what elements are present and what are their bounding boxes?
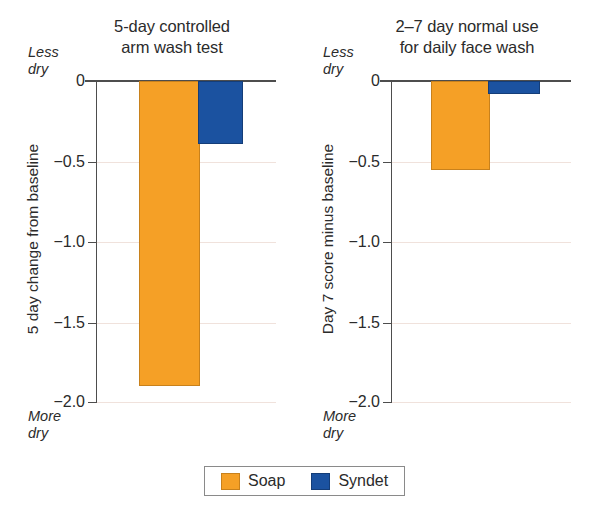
y-tick-label-right-2: −1.0 — [348, 233, 380, 251]
chart-title-left: 5-day controlled arm wash test — [52, 16, 292, 58]
bar-right-syndet — [488, 81, 540, 94]
y-tick-label-right-1: −0.5 — [348, 153, 380, 171]
gridline-right-1.0 — [392, 242, 571, 243]
chart-title-right-line-2: for daily face wash — [347, 37, 587, 58]
annotation-less-dry-left-line-1: Less — [28, 44, 59, 61]
y-tick-right-3 — [383, 323, 392, 324]
y-tick-label-left-3: −1.5 — [53, 314, 85, 332]
legend-item-soap[interactable]: Soap — [221, 472, 285, 490]
chart-title-left-line-1: 5-day controlled — [52, 16, 292, 37]
annotation-less-dry-left-line-2: dry — [28, 61, 59, 78]
chart-panel-arm-wash-test: 5-day controlled arm wash test 5 day cha… — [0, 0, 295, 450]
y-tick-right-1 — [383, 162, 392, 163]
legend-swatch-syndet-icon — [311, 473, 330, 490]
legend-label-syndet: Syndet — [338, 472, 388, 490]
annotation-less-dry-left: Less dry — [28, 44, 59, 77]
chart-legend: Soap Syndet — [204, 466, 405, 496]
chart-panel-daily-face-wash: 2–7 day normal use for daily face wash D… — [295, 0, 590, 450]
plot-area-right: 0 −0.5 −1.0 −1.5 −2.0 — [391, 81, 571, 403]
gridline-left-2.0 — [97, 402, 276, 403]
annotation-more-dry-left: More dry — [28, 408, 61, 441]
annotation-less-dry-right-line-2: dry — [323, 61, 354, 78]
y-tick-left-3 — [88, 323, 97, 324]
y-tick-left-2 — [88, 242, 97, 243]
gridline-right-2.0 — [392, 402, 571, 403]
y-tick-right-0 — [383, 81, 392, 82]
annotation-more-dry-right-line-2: dry — [323, 425, 356, 442]
annotation-more-dry-right: More dry — [323, 408, 356, 441]
y-tick-label-right-0: 0 — [371, 72, 380, 90]
annotation-less-dry-right: Less dry — [323, 44, 354, 77]
y-tick-right-2 — [383, 242, 392, 243]
y-tick-label-left-0: 0 — [76, 72, 85, 90]
y-axis-label-right: Day 7 score minus baseline — [319, 124, 337, 354]
legend-label-soap: Soap — [248, 472, 285, 490]
y-tick-right-4 — [383, 402, 392, 403]
gridline-right-1.5 — [392, 323, 571, 324]
plot-area-left: 0 −0.5 −1.0 −1.5 −2.0 — [96, 81, 276, 403]
annotation-less-dry-right-line-1: Less — [323, 44, 354, 61]
chart-title-right-line-1: 2–7 day normal use — [347, 16, 587, 37]
chart-title-right: 2–7 day normal use for daily face wash — [347, 16, 587, 58]
chart-title-left-line-2: arm wash test — [52, 37, 292, 58]
y-tick-left-0 — [88, 81, 97, 82]
annotation-more-dry-left-line-2: dry — [28, 425, 61, 442]
y-tick-left-1 — [88, 162, 97, 163]
y-axis-label-left: 5 day change from baseline — [24, 124, 42, 354]
y-tick-label-left-2: −1.0 — [53, 233, 85, 251]
y-tick-label-right-3: −1.5 — [348, 314, 380, 332]
bar-right-soap — [431, 81, 490, 170]
y-tick-label-right-4: −2.0 — [348, 393, 380, 411]
figure-two-panel-bar-chart: 5-day controlled arm wash test 5 day cha… — [0, 0, 590, 512]
y-tick-label-left-1: −0.5 — [53, 153, 85, 171]
bar-left-syndet — [198, 81, 243, 144]
legend-swatch-soap-icon — [221, 473, 240, 490]
legend-item-syndet[interactable]: Syndet — [311, 472, 388, 490]
y-tick-label-left-4: −2.0 — [53, 393, 85, 411]
y-tick-left-4 — [88, 402, 97, 403]
bar-left-soap — [139, 81, 200, 386]
